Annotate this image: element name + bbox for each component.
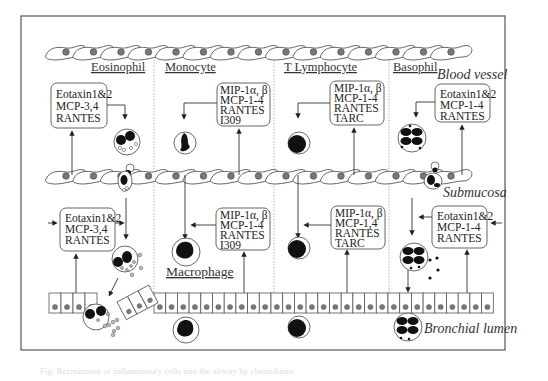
header-monocyte: Monocyte xyxy=(165,60,216,74)
basophil-lumen xyxy=(394,313,422,341)
lower-box-basophil: Eotaxin1&2 MCP-1-4 RANTES xyxy=(432,206,493,248)
macrophage-cell xyxy=(172,238,200,266)
monocyte-cell-upper xyxy=(174,132,196,154)
t-lymphocyte-lumen xyxy=(288,316,310,338)
label-submucosa: Submucosa xyxy=(443,185,507,200)
t-lymphocyte-cell-upper xyxy=(288,132,310,154)
label-macrophage: Macrophage xyxy=(166,264,233,279)
header-basophil: Basophil xyxy=(393,60,438,74)
svg-text:Eotaxin1&2: Eotaxin1&2 xyxy=(56,88,112,100)
upper-box-monocyte: MIP-1α, β MCP-1-4 RANTES I309 xyxy=(217,83,270,126)
figure-caption: Fig. Recruitment of inflammatory cells i… xyxy=(40,366,510,380)
upper-box-t-lymphocyte: MIP-1α, β MCP-1-4 RANTES TARC xyxy=(330,81,384,125)
basophil-cell-upper xyxy=(398,124,426,152)
diagram: Eosinophil Monocyte T Lymphocyte Basophi… xyxy=(0,0,548,381)
label-blood-vessel: Blood vessel xyxy=(437,67,507,82)
submucosa-endothelium xyxy=(45,170,471,184)
blood-vessel-endothelium xyxy=(45,46,471,60)
macrophage-lumen xyxy=(173,317,199,343)
eosinophil-cell-upper xyxy=(114,129,140,155)
svg-text:TARC: TARC xyxy=(334,112,364,124)
header-eosinophil: Eosinophil xyxy=(91,60,146,74)
svg-text:TARC: TARC xyxy=(335,237,365,249)
svg-text:RANTES: RANTES xyxy=(56,112,101,124)
upper-box-basophil: Eotaxin1&2 MCP-1-4 RANTES xyxy=(435,84,496,122)
svg-text:RANTES: RANTES xyxy=(65,234,110,246)
lower-box-t-lymphocyte: MIP-1α, β MCP-1,4 RANTES TARC xyxy=(331,206,385,249)
t-lymphocyte-cell-lower xyxy=(288,237,310,259)
svg-text:RANTES: RANTES xyxy=(440,110,485,122)
svg-text:I309: I309 xyxy=(220,239,241,251)
header-t-lymphocyte: T Lymphocyte xyxy=(284,60,357,74)
label-bronchial-lumen: Bronchial lumen xyxy=(424,321,517,336)
upper-box-eosinophil: Eotaxin1&2 MCP-3,4 RANTES xyxy=(51,83,112,128)
lower-box-eosinophil: Eotaxin1&2 MCP-3,4 RANTES xyxy=(60,208,121,251)
svg-text:I309: I309 xyxy=(220,114,241,126)
svg-text:RANTES: RANTES xyxy=(437,232,482,244)
lower-box-monocyte: MIP-1α, β MCP-1-4 RANTES I309 xyxy=(216,208,270,251)
